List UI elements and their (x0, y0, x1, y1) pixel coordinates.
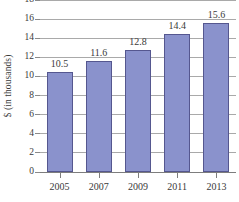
bar-value-label: 11.6 (79, 48, 119, 58)
bar-value-label: 10.5 (40, 59, 80, 69)
y-axis-tick-label: 10 (16, 72, 34, 82)
y-axis-tick-label: 2 (16, 148, 34, 158)
y-axis-tick-label: 12 (16, 53, 34, 63)
plot-area: 10.511.612.814.415.6 (40, 0, 236, 172)
bars-group: 10.511.612.814.415.6 (40, 0, 236, 172)
bar (86, 61, 112, 172)
bar-value-label: 14.4 (157, 21, 197, 31)
x-axis-tick-mark (138, 172, 139, 178)
y-axis-tick-label: 4 (16, 129, 34, 139)
x-axis-tick-marks (40, 172, 236, 178)
bar (47, 72, 73, 172)
bar-value-label: 15.6 (196, 10, 236, 20)
bar (203, 23, 229, 172)
x-axis-tick-labels: 20052007200920112013 (40, 181, 236, 195)
x-axis-tick-mark (216, 172, 217, 178)
bar-value-label: 12.8 (118, 37, 158, 47)
x-axis-tick-label: 2013 (192, 181, 239, 193)
y-axis-tick-label: 0 (16, 167, 34, 177)
x-axis-tick-mark (177, 172, 178, 178)
y-axis-title-label: $ (in thousands) (3, 55, 13, 118)
y-axis-tick-label: 8 (16, 91, 34, 101)
y-axis-tick-label: 6 (16, 110, 34, 120)
y-axis-tick-labels: 024681012141618 (16, 0, 34, 172)
y-axis-title: $ (in thousands) (0, 0, 16, 172)
bar (125, 50, 151, 172)
y-axis-tick-label: 14 (16, 33, 34, 43)
x-axis-tick-mark (99, 172, 100, 178)
y-axis-tick-label: 18 (16, 0, 34, 5)
x-axis-tick-mark (60, 172, 61, 178)
bar (164, 34, 190, 172)
bar-chart: $ (in thousands) 024681012141618 10.511.… (0, 0, 239, 202)
y-axis-tick-label: 16 (16, 14, 34, 24)
